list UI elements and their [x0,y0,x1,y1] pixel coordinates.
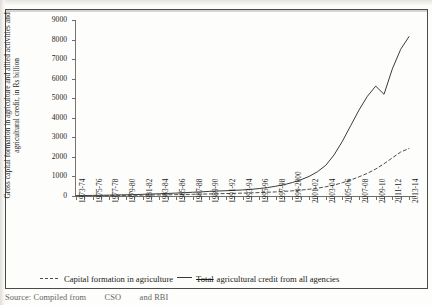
x-axis-tick-label: 1985-86 [179,179,187,203]
x-axis-tick [226,197,227,200]
y-axis-tick: 9000 [72,20,76,21]
y-axis-tick: 6000 [72,79,76,80]
x-axis-tick-label: 1997-98 [279,179,287,203]
x-axis-tick [309,197,310,200]
dashed-line-swatch-icon [40,278,58,279]
series-line-capital-formation [76,148,409,195]
source-note-rbi: and RBI [140,293,169,302]
x-axis-tick-label: 2001-02 [312,179,320,203]
x-axis-tick-label: 1973-74 [79,179,87,203]
x-axis-tick-label: 1999-2000 [295,171,303,203]
source-note: Source: Compiled from CSO and RBI [5,293,168,302]
solid-line-swatch-icon [177,277,192,278]
x-axis-tick [93,197,94,200]
x-axis-tick [143,197,144,200]
y-axis-tick-label: 8000 [52,36,67,44]
scan-shadow-band [6,10,427,12]
y-axis-tick-label: 3000 [52,133,67,141]
x-axis-tick [76,197,77,200]
chart-legend: Capital formation in agriculture Total a… [40,274,339,285]
x-axis-tick [126,197,127,200]
x-axis-tick [409,197,410,200]
series-line-agricultural-credit [76,37,409,196]
x-axis-tick-label: 1989-90 [212,179,220,203]
y-axis-tick: 2000 [72,157,76,158]
x-axis-tick-label: 2011-12 [395,179,403,203]
x-axis-tick-label: 2013-14 [412,179,420,203]
x-axis-tick [359,197,360,200]
y-axis-tick: 4000 [72,118,76,119]
x-axis-tick [176,197,177,200]
y-axis-tick: 3000 [72,137,76,138]
x-axis-tick-label: 1981-82 [146,179,154,203]
x-axis-tick-label: 1983-84 [162,179,170,203]
y-axis-tick-label: 0 [63,192,67,200]
x-axis-tick-label: 2009-10 [379,179,387,203]
y-axis-tick: 8000 [72,40,76,41]
y-axis-tick-label: 6000 [52,75,67,83]
x-axis-tick-label: 1977-78 [112,179,120,203]
x-axis-tick [326,197,327,200]
x-axis-tick-label: 1995-96 [262,179,270,203]
x-axis-tick [276,197,277,200]
legend-label-capital-formation: Capital formation in agriculture [64,274,173,285]
legend-entries: Capital formation in agriculture Total a… [40,274,339,285]
x-axis-tick-label: 1993-94 [246,179,254,203]
y-axis-title: Gross capital formation in agriculture a… [3,2,22,208]
y-axis-tick: 5000 [72,98,76,99]
y-axis-tick-label: 4000 [52,114,67,122]
y-axis-tick-label: 7000 [52,55,67,63]
x-axis-tick [376,197,377,200]
source-note-cso: CSO [105,293,122,302]
y-axis-tick-label: 9000 [52,16,67,24]
x-axis-tick-label: 2007-08 [362,179,370,203]
x-axis-tick [259,197,260,200]
y-axis-tick-label: 5000 [52,94,67,102]
legend-label-agricultural-credit: agricultural credit from all agencies [217,274,340,285]
y-axis-tick: 1000 [72,176,76,177]
series-lines [75,20,416,197]
source-note-prefix: Source: Compiled from [5,293,86,302]
legend-label-struck-total: Total [196,274,214,285]
x-axis-tick-label: 1979-80 [129,179,137,203]
figure-container: Gross capital formation in agriculture a… [0,0,432,305]
x-axis-tick-label: 1991-92 [229,179,237,203]
x-axis-tick [193,197,194,200]
y-axis-tick-label: 2000 [52,153,67,161]
y-axis-tick: 7000 [72,59,76,60]
x-axis-tick-label: 1987-88 [196,179,204,203]
y-axis-tick-label: 1000 [52,172,67,180]
scan-edge-top [0,0,432,6]
x-axis-tick-label: 2003-04 [329,179,337,203]
x-axis-tick-label: 2005-06 [345,179,353,203]
x-axis-tick [243,197,244,200]
plot-area: 9000800070006000500040003000200010000197… [75,20,416,197]
x-axis-tick-label: 1975-76 [96,179,104,203]
